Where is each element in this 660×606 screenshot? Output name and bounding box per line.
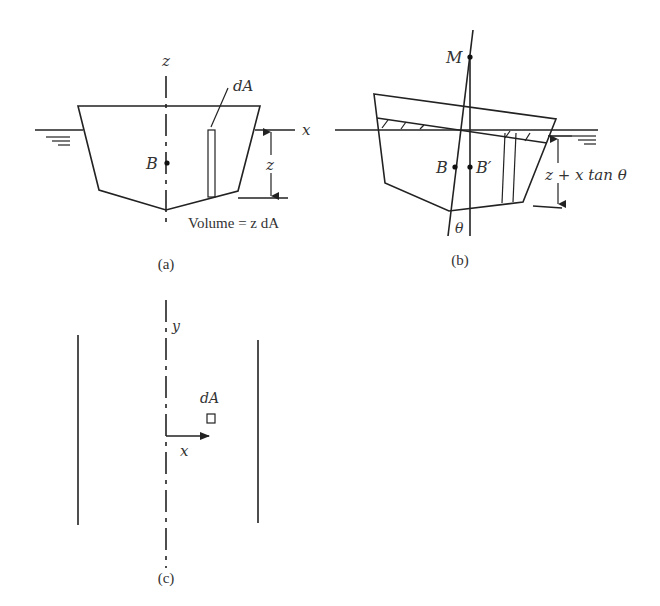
panel-c: y x dA (c) [78, 300, 258, 587]
figure-canvas: z x B dA z Volume = z dA (a) [0, 0, 660, 606]
element-area-label: dA [200, 390, 219, 406]
metacenter-label: M [445, 48, 463, 67]
panel-b: M B B′ θ z + x tan θ (b) [335, 30, 654, 269]
panel-b-caption: (b) [451, 252, 469, 269]
x-axis-label: x [180, 442, 189, 460]
center-of-buoyancy-point [164, 160, 169, 165]
element-strip [208, 130, 215, 197]
element-area-square [207, 414, 215, 423]
element-strip-left [502, 133, 505, 203]
element-strip-right [513, 133, 516, 202]
water-surface-icon [572, 136, 596, 144]
center-of-buoyancy-label: B [435, 158, 448, 177]
panel-a: z x B dA z Volume = z dA (a) [35, 52, 311, 273]
panel-c-caption: (c) [158, 570, 175, 587]
shifted-center-point [467, 164, 472, 169]
shifted-center-label: B′ [475, 158, 492, 177]
volume-formula: Volume = z dA [188, 215, 279, 231]
metacenter-point [467, 54, 472, 59]
depth-label: z + x tan θ [544, 166, 627, 184]
panel-a-caption: (a) [158, 256, 175, 273]
y-axis-label: y [171, 318, 181, 334]
z-axis-label: z [161, 52, 170, 70]
center-of-buoyancy-label: B [145, 154, 158, 173]
element-area-label: dA [233, 77, 254, 95]
hull-heeled [374, 94, 556, 211]
heel-angle-label: θ [455, 220, 464, 236]
x-axis-label: x [302, 121, 311, 139]
dimension-bottom-extension [533, 206, 562, 208]
hull-upright [78, 106, 260, 210]
depth-label: z [265, 156, 274, 174]
element-leader-line [211, 88, 228, 127]
water-surface-icon [46, 137, 70, 145]
center-of-buoyancy-point [452, 164, 457, 169]
